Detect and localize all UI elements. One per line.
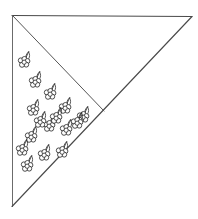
flower-center-icon	[38, 120, 42, 124]
flower-center-icon	[60, 150, 64, 154]
hypotenuse-edge	[12, 17, 192, 207]
flower-center-icon	[42, 153, 46, 157]
flower-sprig-icon	[38, 145, 50, 161]
flower-sprig-icon	[60, 120, 72, 136]
flower-sprig-icon	[16, 140, 28, 156]
outer-triangle-group	[12, 16, 192, 207]
flower-center-icon	[29, 135, 33, 139]
flower-center-icon	[47, 124, 51, 128]
motif-layer	[16, 52, 89, 172]
flower-center-icon	[31, 108, 35, 112]
flower-center-icon	[22, 60, 26, 64]
flower-sprig-icon	[21, 156, 33, 172]
flower-center-icon	[54, 116, 58, 120]
flower-center-icon	[33, 80, 37, 84]
flower-center-icon	[20, 148, 24, 152]
figure-canvas	[0, 0, 198, 219]
flower-center-icon	[63, 106, 67, 110]
flower-center-icon	[81, 115, 85, 119]
flower-sprig-icon	[27, 100, 39, 116]
top-edge	[12, 16, 192, 17]
flower-sprig-icon	[44, 84, 56, 100]
flower-center-icon	[25, 164, 29, 168]
flower-center-icon	[75, 121, 79, 125]
flower-sprig-icon	[29, 72, 41, 88]
folded-triangle-diagram	[0, 0, 198, 219]
flower-sprig-icon	[18, 52, 30, 68]
flower-center-icon	[48, 92, 52, 96]
flower-sprig-icon	[59, 98, 71, 114]
flower-center-icon	[64, 128, 68, 132]
flower-sprig-icon	[56, 142, 68, 158]
